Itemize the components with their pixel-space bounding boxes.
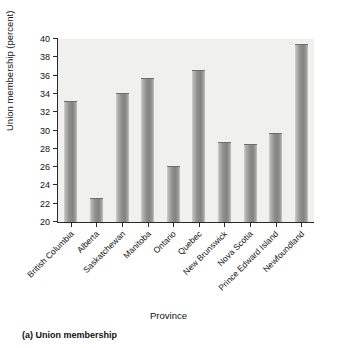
bar [141,78,154,222]
bar [192,70,205,222]
bar [244,144,257,222]
x-tick [301,222,302,227]
bar [90,198,103,222]
bar [295,44,308,223]
y-tick-label: 32 [40,108,50,117]
y-tick: 24 [53,184,58,185]
y-tick-label: 34 [40,89,50,98]
x-tick [96,222,97,227]
y-tick-label: 26 [40,163,50,172]
figure-caption: (a) Union membership [22,330,117,340]
y-tick-label: 30 [40,126,50,135]
y-tick: 40 [53,38,58,39]
bar [218,142,231,222]
x-tick [276,222,277,227]
y-tick: 20 [53,221,58,222]
x-tick [224,222,225,227]
bar [64,101,77,222]
y-tick: 30 [53,130,58,131]
y-tick: 22 [53,203,58,204]
y-tick: 26 [53,166,58,167]
union-membership-bar-chart: Union membership (percent) 2022242628303… [0,0,337,348]
y-tick-label: 28 [40,144,50,153]
y-tick: 34 [53,93,58,94]
x-tick [148,222,149,227]
y-tick: 28 [53,148,58,149]
x-tick [173,222,174,227]
y-tick-label: 22 [40,199,50,208]
y-tick-label: 36 [40,71,50,80]
x-tick-label: Ontario [152,229,178,255]
y-tick: 32 [53,111,58,112]
y-tick-label: 40 [40,35,50,44]
x-tick-label: British Columbia [26,229,76,279]
y-tick-label: 24 [40,181,50,190]
y-tick: 38 [53,56,58,57]
x-tick [122,222,123,227]
y-axis-title: Union membership (percent) [4,11,15,131]
x-tick [250,222,251,227]
x-tick [71,222,72,227]
bar [269,133,282,222]
plot-area: 2022242628303234363840 British ColumbiaA… [57,39,314,223]
bar [116,93,129,222]
x-tick [199,222,200,227]
bar [167,166,180,222]
y-tick-label: 20 [40,218,50,227]
x-axis-title: Province [0,310,337,321]
y-tick: 36 [53,75,58,76]
y-tick-label: 38 [40,53,50,62]
